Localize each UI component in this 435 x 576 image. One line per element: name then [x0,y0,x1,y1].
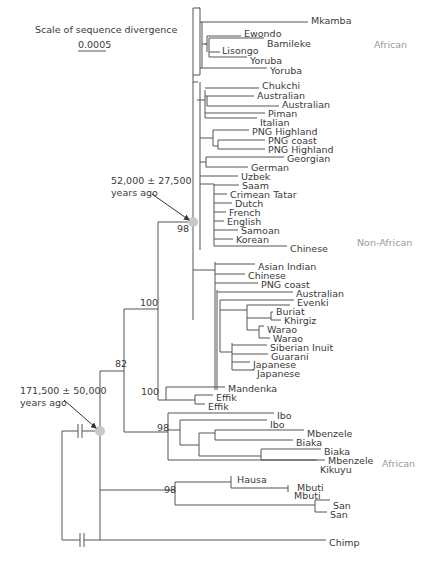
dated-node-marker [95,426,105,436]
leaf-labels: MkambaEwondoBamilekeLisongoYorubaYorubaC… [208,15,374,548]
leaf-label: Chinese [290,243,328,254]
leaf-label: Bamileke [267,38,311,49]
bootstrap-value: 98 [157,422,169,433]
arrow-icon [152,194,189,220]
scale-title: Scale of sequence divergence [35,24,178,35]
date-unit: years ago [20,397,67,408]
branch-break-icon [78,424,82,438]
leaf-label: Yoruba [269,65,302,76]
population-group-label: African [374,39,407,50]
leaf-label: Mbuti [294,490,321,501]
scale-value: 0.0005 [78,39,111,50]
arrow-icon [64,400,96,428]
bootstrap-value: 98 [164,484,176,495]
dated-nodes [95,217,198,436]
date-estimate: 52,000 ± 27,500 [111,175,191,186]
branch-break-icon [80,533,84,547]
leaf-label: Hausa [237,474,267,485]
phylogenetic-tree: Scale of sequence divergence 0.0005 52,0… [0,0,435,576]
date-estimate: 171,500 ± 50,000 [20,385,107,396]
population-group-label: African [382,458,415,469]
group-labels: AfricanNon-AfricanAfrican [357,39,415,469]
scale-bar: Scale of sequence divergence 0.0005 [35,24,178,51]
bootstrap-value: 100 [140,297,158,308]
leaf-label: Effik [208,401,229,412]
bootstrap-value: 100 [141,386,159,397]
leaf-label: Ibo [270,419,285,430]
leaf-label: Georgian [287,153,330,164]
leaf-label: Kikuyu [320,464,352,475]
leaf-label: Chimp [329,537,360,548]
population-group-label: Non-African [357,237,412,248]
outgroup-branches [62,424,326,547]
date-annotation: 52,000 ± 27,500years ago [111,175,191,220]
date-annotation: 171,500 ± 50,000years ago [20,385,107,428]
date-unit: years ago [111,187,158,198]
bootstrap-values: 98100821009898 [115,223,189,495]
bootstrap-value: 82 [115,358,127,369]
bootstrap-value: 98 [177,223,189,234]
leaf-label: Korean [236,234,269,245]
leaf-label: San [330,509,348,520]
dated-node-marker [188,217,198,227]
leaf-label: Japanese [256,368,300,379]
leaf-label: Biaka [296,437,322,448]
leaf-label: Mkamba [311,15,351,26]
